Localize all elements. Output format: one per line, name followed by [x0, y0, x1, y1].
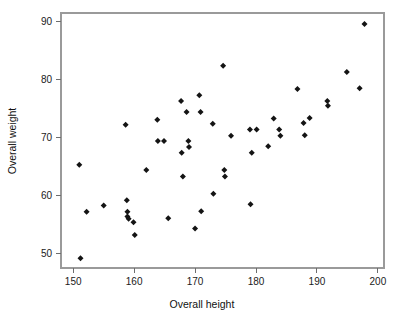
scatter-plot-figure: 150160170180190200 5060708090 Overall he…	[0, 0, 404, 318]
y-tick-label: 60	[41, 190, 53, 201]
x-axis-label: Overall height	[170, 298, 235, 310]
x-tick-label: 170	[187, 276, 204, 287]
x-tick-label: 190	[309, 276, 326, 287]
x-tick-label: 180	[248, 276, 265, 287]
y-tick-label: 50	[41, 248, 53, 259]
plot-canvas: 150160170180190200 5060708090 Overall he…	[0, 0, 404, 318]
x-tick-label: 200	[370, 276, 387, 287]
y-tick-label: 80	[41, 74, 53, 85]
x-tick-label: 150	[65, 276, 82, 287]
y-tick-label: 90	[41, 16, 53, 27]
x-tick-label: 160	[126, 276, 143, 287]
y-tick-label: 70	[41, 132, 53, 143]
y-axis-label: Overall weight	[6, 108, 18, 175]
